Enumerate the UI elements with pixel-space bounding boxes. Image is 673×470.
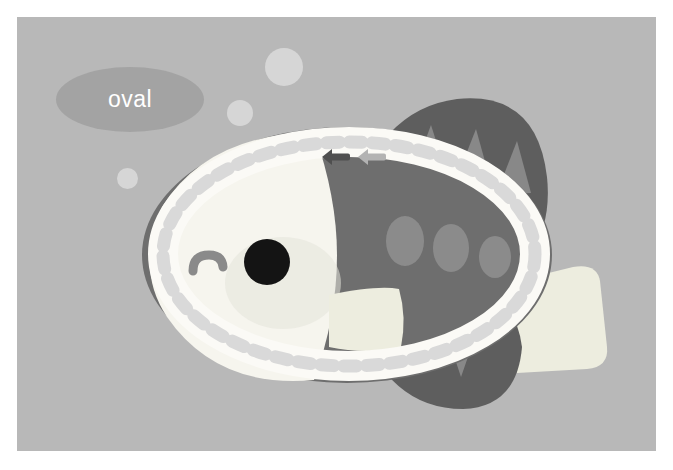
- arrow-left-icon: [358, 149, 386, 165]
- shape-type-label-text: oval: [108, 88, 152, 111]
- resize-handle-active[interactable]: [321, 147, 351, 167]
- shape-type-label: oval: [56, 67, 204, 132]
- drawing-canvas[interactable]: oval: [17, 17, 656, 451]
- arrow-left-icon: [322, 149, 350, 165]
- app-root: oval: [0, 0, 673, 470]
- selection-dashes: [163, 142, 535, 366]
- bubble-small: [117, 168, 138, 189]
- bubble-large: [265, 48, 303, 86]
- resize-handle-ghost[interactable]: [357, 147, 387, 167]
